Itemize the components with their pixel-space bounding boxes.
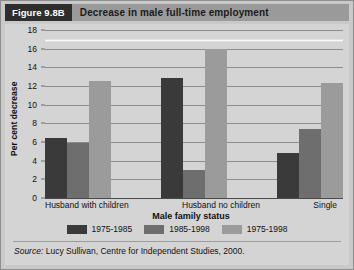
source-note: Source: Lucy Sullivan, Centre for Indepe…	[14, 246, 245, 256]
bar	[277, 153, 299, 198]
axis-baseline	[45, 198, 343, 199]
y-tick-mark	[41, 104, 45, 105]
chart-legend: 1975-19851985-19981975-1998	[5, 224, 349, 234]
x-axis-category-labels: Husband with childrenHusband no children…	[45, 200, 337, 210]
bar	[67, 143, 89, 198]
y-tick-label: 18	[28, 26, 37, 35]
x-category-label: Husband with children	[45, 200, 129, 210]
bar-group	[277, 30, 343, 198]
y-tick-mark	[41, 48, 45, 49]
y-tick-mark	[41, 123, 45, 124]
source-prefix: Source:	[14, 246, 43, 256]
legend-swatch	[222, 225, 242, 234]
legend-label: 1975-1985	[92, 224, 133, 234]
y-tick-mark	[41, 86, 45, 87]
y-tick-mark	[41, 179, 45, 180]
bars-layer	[45, 30, 343, 198]
source-text: Lucy Sullivan, Centre for Independent St…	[46, 246, 245, 256]
x-category-label: Single	[313, 200, 337, 210]
bar-group	[161, 30, 227, 198]
y-tick-label: 8	[32, 119, 37, 128]
figure-header: Figure 9.8B Decrease in male full-time e…	[5, 4, 349, 21]
y-tick-mark	[41, 160, 45, 161]
y-axis-tick-labels: 181614121086420	[23, 30, 41, 198]
y-tick-label: 0	[32, 194, 37, 203]
figure-number-badge: Figure 9.8B	[5, 4, 72, 21]
x-axis-label: Male family status	[45, 211, 337, 221]
legend-label: 1975-1998	[247, 224, 288, 234]
bar	[183, 170, 205, 198]
y-tick-label: 6	[32, 138, 37, 147]
legend-swatch	[67, 225, 87, 234]
legend-label: 1985-1998	[169, 224, 210, 234]
source-divider	[13, 241, 341, 242]
legend-item: 1975-1985	[67, 224, 133, 234]
figure-title: Decrease in male full-time employment	[72, 4, 349, 21]
y-tick-mark	[41, 198, 45, 199]
plot-zone: Per cent decrease 181614121086420 Husban…	[5, 28, 343, 224]
bar	[205, 49, 227, 198]
bar-group	[45, 30, 111, 198]
chart-panel: Per cent decrease 181614121086420 Husban…	[5, 24, 349, 265]
y-tick-label: 4	[32, 156, 37, 165]
y-tick-label: 14	[28, 63, 37, 72]
plot-area	[45, 30, 343, 198]
y-tick-mark	[41, 30, 45, 31]
bar	[161, 78, 183, 198]
y-tick-label: 10	[28, 100, 37, 109]
figure-container: Figure 9.8B Decrease in male full-time e…	[0, 0, 354, 270]
y-tick-mark	[41, 142, 45, 143]
bar	[45, 138, 67, 198]
y-axis-label: Per cent decrease	[9, 64, 21, 174]
y-tick-label: 2	[32, 175, 37, 184]
bar	[89, 81, 111, 198]
y-tick-label: 16	[28, 44, 37, 53]
bar	[299, 129, 321, 198]
bar	[321, 83, 343, 198]
x-category-label: Husband no children	[182, 200, 260, 210]
y-tick-label: 12	[28, 82, 37, 91]
axis-area: 181614121086420	[23, 30, 343, 198]
legend-swatch	[144, 225, 164, 234]
legend-item: 1975-1998	[222, 224, 288, 234]
y-tick-mark	[41, 67, 45, 68]
legend-item: 1985-1998	[144, 224, 210, 234]
